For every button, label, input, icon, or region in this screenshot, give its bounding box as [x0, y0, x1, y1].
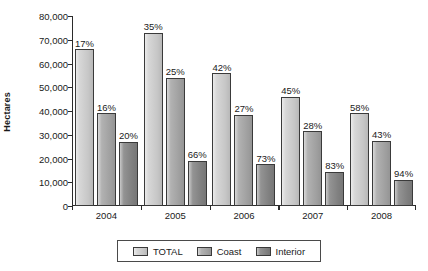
bar-wrapper: 20% [119, 142, 138, 206]
y-axis-tick-mark [68, 64, 72, 65]
bar-wrapper: 73% [256, 164, 275, 206]
bars: 42%27%73% [210, 16, 279, 206]
y-axis-tick-labels: 010,00020,00030,00040,00050,00060,00070,… [16, 16, 68, 206]
bar-coast-2006[interactable]: 27% [234, 115, 253, 206]
bar-wrapper: 17% [75, 49, 94, 206]
bar-value-label: 43% [372, 130, 391, 140]
bar-value-label: 83% [325, 161, 344, 171]
x-axis-tick-label: 2007 [278, 210, 347, 221]
bar-groups: 17%16%20%35%25%66%42%27%73%45%28%83%58%4… [72, 16, 416, 206]
bar-wrapper: 94% [394, 180, 413, 206]
bar-total-2008[interactable]: 58% [350, 113, 369, 206]
y-axis-tick-mark [68, 206, 72, 207]
y-axis-tick-label: 10,000 [39, 177, 68, 188]
bar-wrapper: 42% [212, 73, 231, 206]
bar-group-2004: 17%16%20% [72, 16, 141, 206]
bar-group-2007: 45%28%83% [278, 16, 347, 206]
y-axis-tick-mark [68, 159, 72, 160]
y-axis-tick-mark [68, 111, 72, 112]
legend-item-interior[interactable]: Interior [256, 246, 306, 257]
bar-wrapper: 28% [303, 131, 322, 206]
bar-wrapper: 35% [144, 33, 163, 206]
bar-group-2006: 42%27%73% [210, 16, 279, 206]
bar-wrapper: 83% [325, 172, 344, 206]
bar-value-label: 94% [394, 169, 413, 179]
legend-swatch-icon [197, 247, 212, 256]
bar-value-label: 17% [75, 39, 94, 49]
bar-interior-2008[interactable]: 94% [394, 180, 413, 206]
bar-total-2006[interactable]: 42% [212, 73, 231, 206]
bars: 17%16%20% [72, 16, 141, 206]
bar-coast-2007[interactable]: 28% [303, 131, 322, 206]
bar-value-label: 73% [256, 154, 275, 164]
x-axis-tick-label: 2005 [141, 210, 210, 221]
bar-wrapper: 25% [166, 78, 185, 206]
x-axis-tick-labels: 20042005200620072008 [72, 210, 416, 221]
y-axis-tick-mark [68, 135, 72, 136]
x-axis-tick-label: 2006 [210, 210, 279, 221]
bar-coast-2005[interactable]: 25% [166, 78, 185, 206]
bar-group-2008: 58%43%94% [347, 16, 416, 206]
legend-swatch-icon [133, 247, 148, 256]
bar-wrapper: 58% [350, 113, 369, 206]
bar-interior-2004[interactable]: 20% [119, 142, 138, 206]
bar-total-2007[interactable]: 45% [281, 97, 300, 206]
y-axis-tick-label: 60,000 [39, 58, 68, 69]
y-axis-tick-mark [68, 40, 72, 41]
bars: 45%28%83% [278, 16, 347, 206]
y-axis-tick-label: 50,000 [39, 82, 68, 93]
bar-value-label: 66% [188, 150, 207, 160]
bar-wrapper: 43% [372, 141, 391, 206]
bar-wrapper: 27% [234, 115, 253, 206]
bar-value-label: 27% [234, 104, 253, 114]
bar-total-2005[interactable]: 35% [144, 33, 163, 206]
bar-interior-2007[interactable]: 83% [325, 172, 344, 206]
bar-coast-2004[interactable]: 16% [97, 113, 116, 206]
y-axis-tick-label: 70,000 [39, 34, 68, 45]
bar-interior-2006[interactable]: 73% [256, 164, 275, 206]
bars: 35%25%66% [141, 16, 210, 206]
bar-value-label: 25% [166, 67, 185, 77]
bar-wrapper: 16% [97, 113, 116, 206]
bar-wrapper: 66% [188, 161, 207, 206]
y-axis-tick-label: 30,000 [39, 129, 68, 140]
bar-value-label: 45% [281, 86, 300, 96]
bar-coast-2008[interactable]: 43% [372, 141, 391, 206]
y-axis-tick-label: 40,000 [39, 106, 68, 117]
bar-chart: Hectares 010,00020,00030,00040,00050,000… [0, 0, 428, 271]
y-axis-tick-mark [68, 16, 72, 17]
bar-value-label: 35% [144, 22, 163, 32]
bar-total-2004[interactable]: 17% [75, 49, 94, 206]
x-axis-tick-label: 2008 [347, 210, 416, 221]
x-axis-tick-label: 2004 [72, 210, 141, 221]
y-axis-tick-mark [68, 87, 72, 88]
legend-swatch-icon [256, 247, 271, 256]
bar-value-label: 28% [303, 121, 322, 131]
bar-value-label: 16% [97, 103, 116, 113]
legend-label: Coast [217, 246, 242, 257]
legend-label: TOTAL [153, 246, 183, 257]
y-axis-tick-mark [68, 182, 72, 183]
y-axis-tick-label: 80,000 [39, 11, 68, 22]
bar-interior-2005[interactable]: 66% [188, 161, 207, 206]
plot-area: 17%16%20%35%25%66%42%27%73%45%28%83%58%4… [72, 16, 416, 206]
bars: 58%43%94% [347, 16, 416, 206]
y-axis-tick-label: 20,000 [39, 153, 68, 164]
legend-label: Interior [276, 246, 306, 257]
bar-value-label: 20% [119, 131, 138, 141]
bar-value-label: 58% [350, 103, 369, 113]
legend-item-coast[interactable]: Coast [197, 246, 242, 257]
chart-legend: TOTALCoastInterior [117, 240, 321, 262]
bar-value-label: 42% [212, 63, 231, 73]
bar-group-2005: 35%25%66% [141, 16, 210, 206]
legend-item-total[interactable]: TOTAL [133, 246, 183, 257]
bar-wrapper: 45% [281, 97, 300, 206]
